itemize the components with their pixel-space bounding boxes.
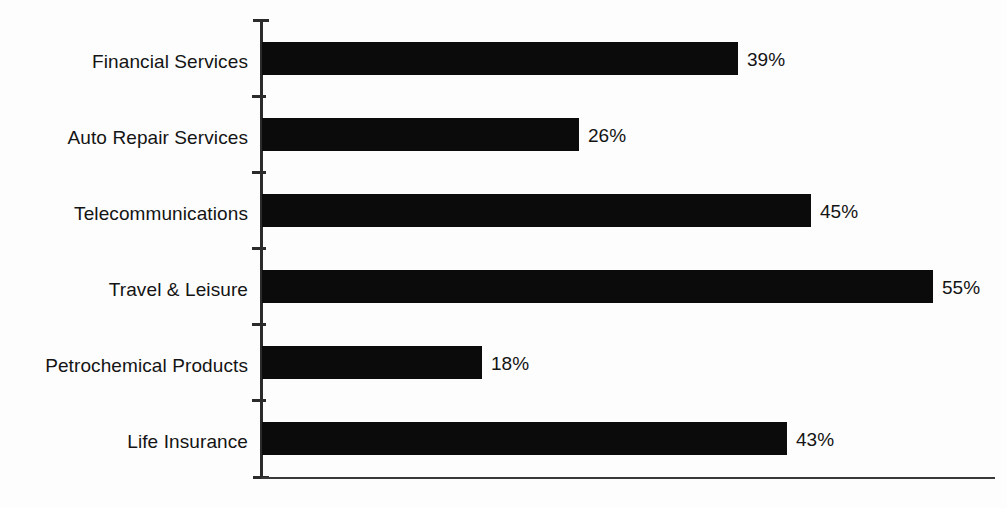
category-label: Life Insurance	[0, 431, 248, 453]
bar-value-label: 18%	[491, 353, 529, 375]
bar-row: Auto Repair Services 26%	[0, 95, 1007, 171]
bar-row: Telecommunications 45%	[0, 171, 1007, 247]
bar-life-insurance	[262, 422, 787, 455]
bar-value-label: 45%	[820, 201, 858, 223]
bar-value-label: 43%	[796, 429, 834, 451]
category-label: Petrochemical Products	[0, 355, 248, 377]
bar-row: Life Insurance 43%	[0, 399, 1007, 475]
bar-travel-and-leisure	[262, 270, 933, 303]
category-label: Travel & Leisure	[0, 279, 248, 301]
bar-row: Petrochemical Products 18%	[0, 323, 1007, 399]
bar-row: Travel & Leisure 55%	[0, 247, 1007, 323]
category-label: Auto Repair Services	[0, 127, 248, 149]
bar-telecommunications	[262, 194, 811, 227]
x-axis-line	[261, 477, 995, 479]
category-label: Financial Services	[0, 51, 248, 73]
bar-chart: Financial Services 39% Auto Repair Servi…	[0, 0, 1007, 508]
bar-financial-services	[262, 42, 738, 75]
bar-value-label: 26%	[588, 125, 626, 147]
plot-area: Financial Services 39% Auto Repair Servi…	[0, 0, 1007, 508]
bar-petrochemical-products	[262, 346, 482, 379]
bar-auto-repair-services	[262, 118, 579, 151]
category-label: Telecommunications	[0, 203, 248, 225]
bar-row: Financial Services 39%	[0, 19, 1007, 95]
bar-value-label: 55%	[942, 277, 980, 299]
bar-value-label: 39%	[747, 49, 785, 71]
